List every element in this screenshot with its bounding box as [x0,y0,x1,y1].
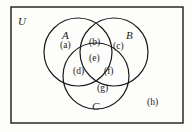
set-c-label: C [92,101,99,112]
set-b-label: B [126,30,133,41]
venn-diagram-figure: U A B C (a) (b) (c) (d) (e) (f) (g) (h) [0,0,192,132]
region-d-label: (d) [73,67,84,77]
region-h-label: (h) [147,98,158,108]
universe-label: U [18,16,26,27]
set-b-circle [80,18,148,86]
region-f-label: (f) [104,67,114,77]
region-a-label: (a) [60,41,71,51]
region-g-label: (g) [97,84,108,94]
venn-diagram-canvas [0,0,192,132]
region-b-label: (b) [89,38,100,48]
region-c-label: (c) [113,42,124,52]
region-e-label: (e) [89,54,100,64]
